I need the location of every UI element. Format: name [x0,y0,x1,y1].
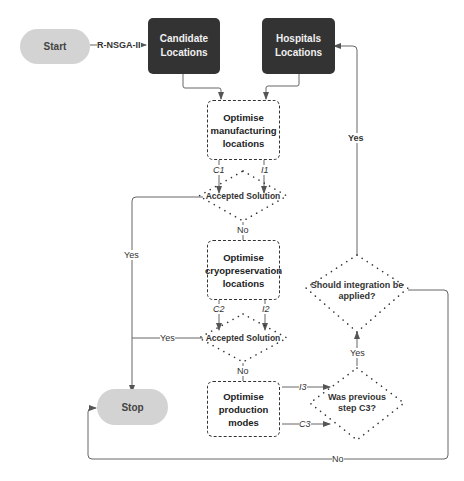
optimise-production-node: Optimise production modes [207,381,280,437]
edge-label-i2: I2 [262,304,270,314]
stop-node: Stop [97,389,168,425]
edge-label-rnsga: R-NSGA-II [97,40,141,50]
edge-label-c1: C1 [213,165,225,175]
start-label: Start [44,41,67,52]
edge-label-yes-2: Yes [160,333,175,343]
optimise-cryopreservation-label: Optimise cryopreservation locations [205,251,282,290]
edge-label-yes-c3: Yes [350,348,365,358]
edge-label-i1: I1 [261,165,269,175]
optimise-manufacturing-label: Optimise manufacturing locations [211,111,277,150]
edge-label-yes-1: Yes [124,250,139,260]
decision-integration-label: Should integration be applied? [308,280,406,302]
stop-label: Stop [121,402,143,413]
edge-label-no-2: No [237,366,249,376]
optimise-manufacturing-node: Optimise manufacturing locations [207,100,280,160]
hospitals-locations-node: Hospitals Locations [262,18,335,74]
edge-label-c2: C2 [213,304,225,314]
edge-label-no-1: No [237,225,249,235]
decision-accepted-2-label: Accepted Solution [205,333,281,344]
start-node: Start [20,29,90,64]
edge-label-no-bottom: No [332,454,344,464]
edge-label-i3: I3 [299,382,307,392]
optimise-production-label: Optimise production modes [214,390,273,429]
edge-label-yes-integration: Yes [348,133,364,143]
decision-accepted-1-label: Accepted Solution [205,191,281,202]
edge-label-c3: C3 [299,419,311,429]
candidate-locations-label: Candidate Locations [154,32,214,60]
hospitals-locations-label: Hospitals Locations [270,32,327,60]
candidate-locations-node: Candidate Locations [148,18,220,74]
optimise-cryopreservation-node: Optimise cryopreservation locations [207,240,280,300]
decision-c3-label: Was previous step C3? [318,392,396,414]
